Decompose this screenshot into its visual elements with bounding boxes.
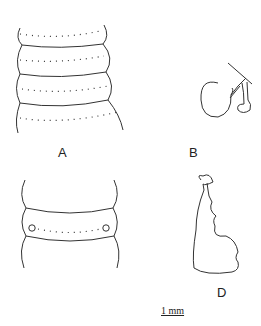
panel-a-label: A [58,146,67,159]
scale-bar: 1 mm [161,305,184,316]
panel-b-label: B [189,146,198,159]
panel-b-drawing [201,63,252,117]
panel-c-drawing [21,180,118,268]
figure-canvas [0,0,261,326]
panel-d-label: D [217,286,226,299]
panel-d-drawing [193,175,238,273]
panel-a-drawing [16,25,123,133]
